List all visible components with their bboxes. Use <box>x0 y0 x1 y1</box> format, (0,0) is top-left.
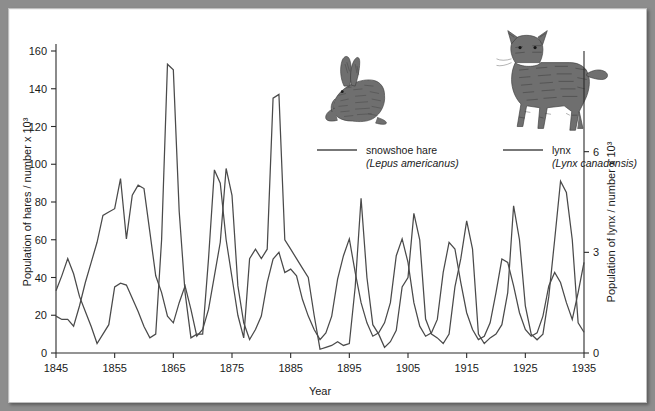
y-left-tick-label: 20 <box>35 309 47 321</box>
x-tick-label: 1845 <box>44 362 68 374</box>
x-tick-label: 1895 <box>337 362 361 374</box>
legend-label-lynx: lynx <box>552 144 571 156</box>
y-left-tick-label: 140 <box>29 83 47 95</box>
x-tick-label: 1885 <box>278 362 302 374</box>
y-left-tick-label: 40 <box>35 272 47 284</box>
population-cycle-chart: snowshoe hare (Lepus americanus) lynx (L… <box>9 9 647 403</box>
lynx-illustration <box>497 31 608 131</box>
legend-sci-hare: (Lepus americanus) <box>366 157 459 169</box>
x-axis-title: Year <box>309 385 332 397</box>
x-tick-label: 1925 <box>513 362 537 374</box>
x-tick-label: 1935 <box>572 362 596 374</box>
x-tick-label: 1855 <box>102 362 126 374</box>
chart-panel: snowshoe hare (Lepus americanus) lynx (L… <box>8 8 647 403</box>
snowshoe-hare-illustration <box>326 56 387 124</box>
y-right-tick-label: 0 <box>593 347 599 359</box>
y-left-axis-title: Population of hares / number x 10³ <box>21 117 33 286</box>
y-left-tick-label: 80 <box>35 196 47 208</box>
y-left-tick-label: 160 <box>29 45 47 57</box>
x-tick-label: 1865 <box>161 362 185 374</box>
x-tick-label: 1915 <box>454 362 478 374</box>
legend-item-hare: snowshoe hare (Lepus americanus) <box>317 144 459 169</box>
x-tick-label: 1905 <box>396 362 420 374</box>
x-tick-label: 1875 <box>220 362 244 374</box>
y-left-tick-label: 0 <box>41 347 47 359</box>
series-line-snowshoe-hare <box>56 64 584 349</box>
legend-label-hare: snowshoe hare <box>366 144 437 156</box>
y-right-tick-label: 3 <box>593 246 599 258</box>
series-line-lynx <box>56 168 584 339</box>
y-right-axis-title: Population of lynx / number x 10³ <box>605 141 617 302</box>
plot-area: 0204060801001201401600361845185518651875… <box>29 44 599 374</box>
y-right-tick-label: 6 <box>593 146 599 158</box>
legend: snowshoe hare (Lepus americanus) lynx (L… <box>317 144 637 169</box>
legend-sci-lynx: (Lynx canadensis) <box>552 157 637 169</box>
y-left-tick-label: 60 <box>35 234 47 246</box>
